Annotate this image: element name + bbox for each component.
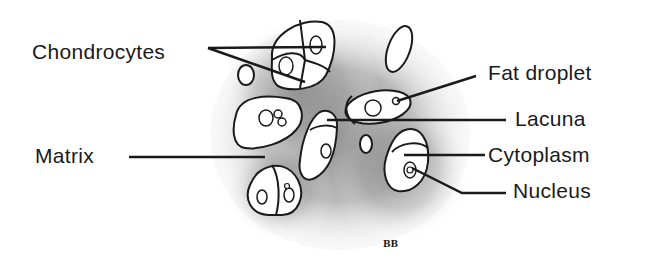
label-cytoplasm: Cytoplasm [488, 144, 590, 165]
leader-chondrocytes-1 [208, 47, 326, 48]
label-lacuna: Lacuna [515, 108, 586, 129]
small-lacuna-center [360, 135, 372, 153]
artist-signature: BB [383, 239, 398, 249]
label-nucleus: Nucleus [513, 180, 591, 201]
small-lacuna [238, 65, 254, 85]
label-matrix: Matrix [35, 145, 94, 166]
label-fat-droplet: Fat droplet [488, 62, 592, 83]
label-chondrocytes: Chondrocytes [32, 41, 165, 62]
